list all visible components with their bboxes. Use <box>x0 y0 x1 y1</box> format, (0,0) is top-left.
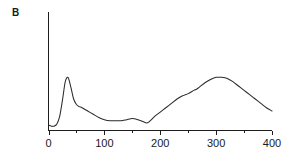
chart-series-group <box>49 77 273 126</box>
x-tick-label: 300 <box>207 137 225 149</box>
x-tick-label: 400 <box>263 137 281 149</box>
data-curve-signal <box>49 77 273 126</box>
x-tick-label: 100 <box>95 137 113 149</box>
figure-panel-b: B 0100200300400 <box>0 0 286 159</box>
chart-x-ticks <box>50 131 273 135</box>
x-tick-label: 0 <box>45 137 51 149</box>
x-tick-label: 200 <box>151 137 169 149</box>
chart-x-tick-labels: 0100200300400 <box>45 137 281 149</box>
line-chart-plot: 0100200300400 <box>0 0 286 159</box>
